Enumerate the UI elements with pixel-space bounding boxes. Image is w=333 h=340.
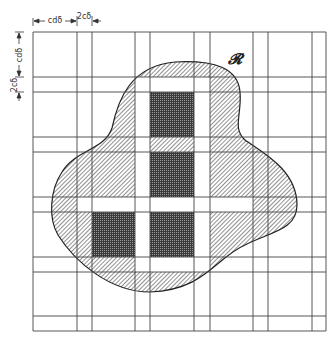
dim-left-2c-delta: 2cδ xyxy=(10,78,19,92)
interior-square xyxy=(150,212,194,257)
interior-square xyxy=(150,92,194,137)
region-grid-diagram: cdδ 2cδ cdδ 2cδ 𝓡 xyxy=(0,0,333,340)
region-r xyxy=(52,62,297,292)
interior-square xyxy=(150,152,194,197)
dim-top-2c-delta: 2cδ xyxy=(77,12,91,21)
dim-top-cd-delta: cdδ xyxy=(48,16,62,25)
dim-left-cd-delta: cdδ xyxy=(15,48,24,62)
interior-square xyxy=(92,212,135,257)
region-label: 𝓡 xyxy=(227,50,245,68)
